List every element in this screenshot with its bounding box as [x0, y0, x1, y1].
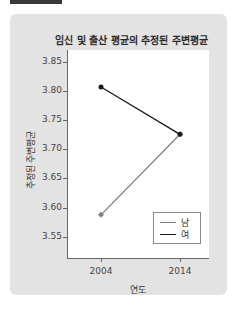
legend-line-icon	[160, 222, 176, 223]
legend-item-female: 여	[160, 228, 189, 240]
legend-item-male: 남	[160, 216, 189, 228]
series-lines	[0, 0, 235, 309]
legend-line-icon	[160, 234, 176, 235]
legend: 남 여	[153, 212, 201, 244]
legend-label: 여	[181, 228, 189, 241]
